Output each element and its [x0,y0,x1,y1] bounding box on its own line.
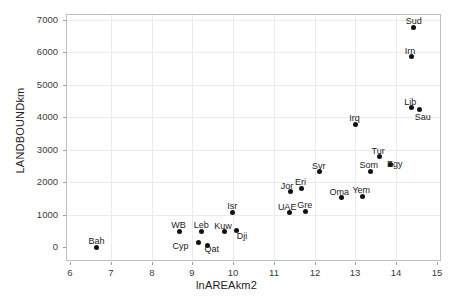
data-point-label: Sud [406,16,422,26]
data-point-label: Bah [89,236,105,246]
data-point-label: Yem [352,185,370,195]
x-axis-tick-label: 12 [303,267,327,278]
y-axis-tick-mark [63,117,66,118]
y-axis-tick-label: 1000 [24,209,58,220]
data-point-label: Dji [237,231,248,241]
x-axis-tick-mark [70,262,71,265]
data-point-label: Eri [295,177,306,187]
y-axis-tick-mark [63,85,66,86]
x-axis-tick-mark [355,262,356,265]
y-axis-tick-mark [63,52,66,53]
data-point-label: Oma [330,187,350,197]
y-axis-tick-label: 3000 [24,144,58,155]
gridline-vertical [396,15,397,260]
gridline-horizontal [67,182,440,183]
x-axis-tick-mark [192,262,193,265]
data-point-label: Irq [349,113,360,123]
x-axis-tick-label: 6 [58,267,82,278]
y-axis-tick-label: 2000 [24,176,58,187]
gridline-horizontal [67,52,440,53]
data-point-label: Tur [372,146,385,156]
gridline-horizontal [67,20,440,21]
data-point-label: Syr [312,161,326,171]
scatter-chart: LANDBOUNDkm lnAREAkm2 010002000300040005… [0,0,453,307]
x-axis-tick-label: 10 [221,267,245,278]
data-point-label: Leb [194,220,209,230]
x-axis-tick-label: 13 [343,267,367,278]
data-point-label: Som [359,160,378,170]
y-axis-tick-label: 7000 [24,14,58,25]
x-axis-tick-label: 15 [425,267,449,278]
data-point-label: Kuw [214,221,232,231]
x-axis-tick-mark [437,262,438,265]
gridline-vertical [233,15,234,260]
data-point-label: Isr [227,201,237,211]
x-axis-tick-mark [315,262,316,265]
data-point-label: Qat [205,244,220,254]
data-point-label: Sau [415,112,431,122]
x-axis-tick-label: 8 [140,267,164,278]
x-axis-tick-label: 7 [99,267,123,278]
data-point-label: Cyp [172,241,188,251]
gridline-horizontal [67,117,440,118]
y-axis-tick-mark [63,20,66,21]
x-axis-tick-mark [396,262,397,265]
data-point-label: Egy [387,159,403,169]
x-axis-tick-mark [233,262,234,265]
gridline-vertical [152,15,153,260]
x-axis-tick-label: 14 [384,267,408,278]
gridline-vertical [355,15,356,260]
data-point-label: Lib [404,97,416,107]
gridline-horizontal [67,215,440,216]
data-point[interactable] [196,240,201,245]
y-axis-tick-mark [63,247,66,248]
x-axis-tick-mark [111,262,112,265]
data-point-label: Irn [405,46,416,56]
x-axis-tick-label: 11 [262,267,286,278]
x-axis-title: lnAREAkm2 [0,279,453,291]
y-axis-tick-mark [63,182,66,183]
y-axis-tick-label: 5000 [24,79,58,90]
y-axis-tick-mark [63,150,66,151]
x-axis-tick-label: 9 [180,267,204,278]
data-point-label: UAE [278,202,297,212]
gridline-vertical [315,15,316,260]
gridline-vertical [111,15,112,260]
y-axis-tick-label: 6000 [24,46,58,57]
y-axis-tick-label: 4000 [24,111,58,122]
gridline-vertical [274,15,275,260]
x-axis-tick-mark [274,262,275,265]
y-axis-tick-mark [63,215,66,216]
data-point-label: Jor [281,181,294,191]
data-point-label: WB [171,220,186,230]
gridline-horizontal [67,85,440,86]
x-axis-tick-mark [152,262,153,265]
y-axis-tick-label: 0 [24,241,58,252]
data-point-label: Gre [297,200,312,210]
